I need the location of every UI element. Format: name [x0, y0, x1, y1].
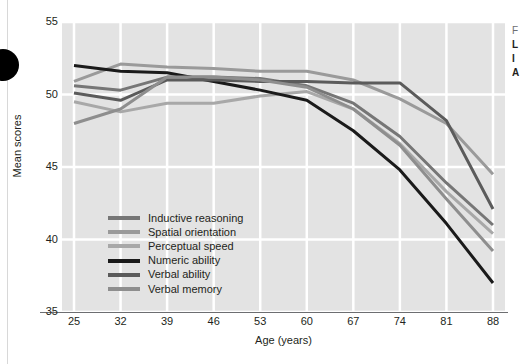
x-axis-tick-label: 53: [240, 316, 280, 327]
x-axis-tick-label: 46: [194, 316, 234, 327]
legend-swatch-icon: [108, 259, 140, 263]
legend-swatch-icon: [108, 273, 140, 277]
legend-swatch-icon: [108, 230, 140, 234]
legend-item[interactable]: Numeric ability: [108, 254, 308, 268]
y-axis-title: Mean scores: [11, 101, 23, 191]
x-axis-tick-label: 32: [101, 316, 141, 327]
y-axis-tick-label: 50: [32, 89, 58, 100]
margin-note: FLIA: [512, 24, 532, 80]
page-marker-dot-icon: [0, 49, 19, 81]
x-axis-tick-label: 88: [473, 316, 513, 327]
x-axis-tick-label: 67: [333, 316, 373, 327]
margin-note-line: A: [512, 66, 532, 80]
legend-swatch-icon: [108, 244, 140, 248]
legend-item-label: Verbal memory: [148, 284, 222, 295]
legend-item-label: Verbal ability: [148, 269, 210, 280]
legend-item[interactable]: Inductive reasoning: [108, 211, 308, 225]
legend-item-label: Numeric ability: [148, 255, 220, 266]
x-axis-ticks: 25323946536067748188: [62, 316, 505, 332]
x-axis-tick-label: 81: [426, 316, 466, 327]
legend-item[interactable]: Verbal ability: [108, 268, 308, 282]
legend-item[interactable]: Spatial orientation: [108, 225, 308, 239]
margin-note-line: F: [512, 24, 532, 38]
y-axis-tick-label: 45: [32, 161, 58, 172]
x-axis-title: Age (years): [62, 334, 505, 346]
x-axis-tick-label: 74: [380, 316, 420, 327]
x-axis-tick-label: 39: [147, 316, 187, 327]
chart-legend: Inductive reasoningSpatial orientationPe…: [108, 211, 308, 296]
x-axis-tick-label: 60: [287, 316, 327, 327]
margin-note-line: L: [512, 38, 532, 52]
margin-note-line: I: [512, 52, 532, 66]
figure-root: 3540455055 25323946536067748188 Age (yea…: [0, 0, 532, 364]
legend-swatch-icon: [108, 287, 140, 291]
legend-swatch-icon: [108, 216, 140, 220]
legend-item-label: Perceptual speed: [148, 241, 234, 252]
y-axis-tick-label: 40: [32, 234, 58, 245]
legend-item[interactable]: Perceptual speed: [108, 239, 308, 253]
x-axis-line: [40, 312, 508, 313]
y-axis-tick-label: 55: [32, 16, 58, 27]
x-axis-tick-label: 25: [54, 316, 94, 327]
legend-item-label: Inductive reasoning: [148, 213, 243, 224]
y-axis-ticks: 3540455055: [28, 22, 58, 312]
legend-item[interactable]: Verbal memory: [108, 282, 308, 296]
legend-item-label: Spatial orientation: [148, 227, 236, 238]
